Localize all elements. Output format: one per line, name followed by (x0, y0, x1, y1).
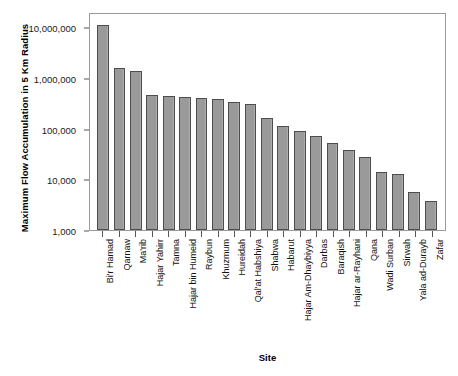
bar[interactable] (294, 131, 306, 230)
bar-slot (341, 14, 357, 230)
x-tick-slot (209, 231, 225, 237)
x-label-slot: Qal'at Habshiya (242, 239, 258, 347)
bar[interactable] (163, 96, 175, 230)
x-label-slot: Hajar Am-Dhaybiyya (292, 239, 308, 347)
bar[interactable] (392, 174, 404, 230)
x-label-slot: Habarut (275, 239, 291, 347)
x-label-slot: Sirwah (390, 239, 406, 347)
x-tick-mark (152, 231, 153, 237)
x-label-slot: Khuzmum (209, 239, 225, 347)
bar-slot (144, 14, 160, 230)
bar[interactable] (376, 172, 388, 230)
x-label-slot: Darbas (308, 239, 324, 347)
bar[interactable] (343, 150, 355, 230)
x-tick-mark (218, 231, 219, 237)
x-axis-title: Site (89, 352, 446, 363)
x-tick-slot (325, 231, 341, 237)
bar[interactable] (130, 71, 142, 230)
x-tick-mark (267, 231, 268, 237)
bar-slot (259, 14, 275, 230)
x-tick-mark (316, 231, 317, 237)
x-label-slot: Zafar (423, 239, 439, 347)
x-tick-mark (234, 231, 235, 237)
bar-slot (423, 14, 439, 230)
x-tick-slot (127, 231, 143, 237)
bar-slot (111, 14, 127, 230)
x-tick-slot (292, 231, 308, 237)
bar-slot (275, 14, 291, 230)
bar[interactable] (179, 97, 191, 230)
bar[interactable] (359, 157, 371, 230)
x-tick-slot (407, 231, 423, 237)
y-tick-label: 10,000,000 (28, 23, 76, 34)
bar-slot (177, 14, 193, 230)
y-tick-label: 10,000 (47, 175, 76, 186)
x-tick-slot (308, 231, 324, 237)
bar-slot (390, 14, 406, 230)
x-tick-mark (415, 231, 416, 237)
bar[interactable] (114, 68, 126, 230)
bar-slot (373, 14, 389, 230)
chart-figure: Maximum Flow Accumulation in 5 Km Radius… (0, 0, 458, 376)
bar[interactable] (245, 104, 257, 230)
bar[interactable] (97, 25, 109, 230)
x-tick-mark (300, 231, 301, 237)
x-tick-slot (110, 231, 126, 237)
x-tick-slot (259, 231, 275, 237)
bar[interactable] (327, 143, 339, 230)
x-tick-slot (143, 231, 159, 237)
x-tick-mark (201, 231, 202, 237)
x-tick-slot (358, 231, 374, 237)
x-label-slot: Raybun (193, 239, 209, 347)
bar[interactable] (408, 192, 420, 230)
y-tick-label: 1,000,000 (34, 73, 76, 84)
bar-slot (308, 14, 324, 230)
bar-slot (324, 14, 340, 230)
bar[interactable] (228, 102, 240, 230)
x-tick-slot (390, 231, 406, 237)
x-axis-ticks (89, 231, 446, 237)
x-label-slot: Tamna (160, 239, 176, 347)
y-axis-ticks: 10,000,0001,000,000100,00010,0001,000 (0, 0, 84, 376)
x-tick-slot (193, 231, 209, 237)
x-label-slot: Shabwa (259, 239, 275, 347)
bar[interactable] (277, 126, 289, 230)
x-label-slot: Yala ad-Durayb (407, 239, 423, 347)
x-tick-mark (283, 231, 284, 237)
bar[interactable] (310, 136, 322, 230)
x-tick-label: Zafar (436, 239, 445, 260)
x-label-slot: Qarnaw (110, 239, 126, 347)
x-tick-mark (333, 231, 334, 237)
x-label-slot: Qana (358, 239, 374, 347)
x-tick-slot (242, 231, 258, 237)
bar[interactable] (146, 95, 158, 230)
bar-slot (161, 14, 177, 230)
x-tick-slot (226, 231, 242, 237)
x-label-slot: Ma'rib (127, 239, 143, 347)
bar[interactable] (425, 201, 437, 230)
x-label-slot: Hajar bin Humeid (176, 239, 192, 347)
bar-series (90, 14, 445, 230)
x-tick-slot (423, 231, 439, 237)
x-axis-category-labels: Bi'r HamadQarnawMa'ribHajar YahirrTamnaH… (89, 239, 446, 347)
x-tick-mark (135, 231, 136, 237)
x-tick-slot (94, 231, 110, 237)
bar-slot (128, 14, 144, 230)
x-tick-mark (168, 231, 169, 237)
bar-slot (357, 14, 373, 230)
bar-slot (193, 14, 209, 230)
bar-slot (95, 14, 111, 230)
x-tick-mark (102, 231, 103, 237)
x-tick-slot (341, 231, 357, 237)
bar[interactable] (261, 118, 273, 230)
bar[interactable] (212, 99, 224, 230)
plot-area (89, 13, 446, 231)
x-tick-slot (160, 231, 176, 237)
x-tick-mark (119, 231, 120, 237)
x-tick-mark (366, 231, 367, 237)
y-tick-label: 1,000 (52, 226, 76, 237)
x-tick-slot (275, 231, 291, 237)
x-tick-mark (185, 231, 186, 237)
bar[interactable] (196, 98, 208, 230)
x-label-slot: Hajar Yahirr (143, 239, 159, 347)
